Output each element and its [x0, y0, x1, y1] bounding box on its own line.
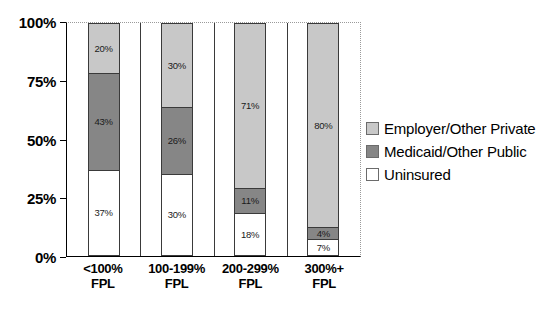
stacked-bar[interactable]: 71%11%18% [234, 23, 266, 256]
x-category-label: <100%FPL [66, 261, 140, 307]
bar-segment[interactable]: 7% [308, 239, 338, 255]
stacked-bar[interactable]: 30%26%30% [161, 23, 193, 256]
bar-segment[interactable]: 18% [235, 213, 265, 255]
bar-segment-label: 43% [94, 117, 112, 127]
bar-group-3: 71%11%18% [214, 23, 287, 256]
y-tick-label: 25% [27, 191, 56, 206]
x-axis-labels: <100%FPL100-199%FPL200-299%FPL300%+FPL [66, 261, 361, 307]
x-category-label-line: FPL [214, 276, 288, 291]
legend-item[interactable]: Medicaid/Other Public [366, 141, 551, 162]
y-tick-mark [60, 22, 66, 23]
x-category-label: 300%+FPL [287, 261, 361, 307]
legend-swatch-icon [366, 122, 379, 135]
x-category-label-line: <100% [66, 261, 140, 276]
chart-legend: Employer/Other PrivateMedicaid/Other Pub… [366, 118, 551, 187]
x-category-label: 100-199%FPL [140, 261, 214, 307]
bar-segment-label: 7% [317, 243, 330, 253]
plot-area: 20%43%37%30%26%30%71%11%18%80%4%7% [66, 22, 361, 257]
category-divider [214, 23, 215, 256]
y-tick-label: 75% [27, 73, 56, 88]
bar-segment[interactable]: 11% [235, 188, 265, 213]
bar-segment-label: 30% [168, 61, 186, 71]
y-tick-mark [60, 198, 66, 199]
category-divider [140, 23, 141, 256]
bar-segment-label: 30% [168, 210, 186, 220]
bar-segment[interactable]: 43% [89, 73, 119, 170]
stacked-bar-chart: 0%25%50%75%100% 20%43%37%30%26%30%71%11%… [0, 0, 553, 314]
legend-item[interactable]: Employer/Other Private [366, 118, 551, 139]
x-category-label-line: FPL [287, 276, 361, 291]
x-category-label-line: FPL [140, 276, 214, 291]
bars-row: 20%43%37%30%26%30%71%11%18%80%4%7% [67, 23, 360, 256]
bar-segment-label: 71% [241, 101, 259, 111]
y-tick-label: 0% [35, 250, 56, 265]
bar-segment-label: 4% [317, 229, 330, 239]
y-tick-mark [60, 140, 66, 141]
legend-item[interactable]: Uninsured [366, 164, 551, 185]
bar-segment[interactable]: 4% [308, 227, 338, 239]
bar-segment[interactable]: 30% [162, 174, 192, 255]
stacked-bar[interactable]: 80%4%7% [307, 23, 339, 256]
bar-segment-label: 37% [94, 208, 112, 218]
bar-segment[interactable]: 80% [308, 24, 338, 227]
bar-group-2: 30%26%30% [140, 23, 213, 256]
x-category-label-line: 100-199% [140, 261, 214, 276]
legend-swatch-icon [366, 145, 379, 158]
category-divider [287, 23, 288, 256]
x-category-label-line: 300%+ [287, 261, 361, 276]
legend-label: Medicaid/Other Public [384, 143, 527, 160]
legend-swatch-icon [366, 168, 379, 181]
y-tick-label: 100% [19, 15, 56, 30]
legend-label: Employer/Other Private [384, 120, 536, 137]
bar-segment-label: 18% [241, 230, 259, 240]
bar-segment-label: 80% [314, 121, 332, 131]
y-axis: 0%25%50%75%100% [0, 0, 62, 314]
x-category-label-line: 200-299% [214, 261, 288, 276]
legend-label: Uninsured [384, 166, 451, 183]
bar-group-4: 80%4%7% [287, 23, 360, 256]
bar-segment[interactable]: 26% [162, 107, 192, 174]
bar-segment-label: 26% [168, 136, 186, 146]
bar-segment[interactable]: 71% [235, 24, 265, 188]
y-tick-mark [60, 81, 66, 82]
x-category-label-line: FPL [66, 276, 140, 291]
bar-segment[interactable]: 37% [89, 170, 119, 255]
bar-segment-label: 11% [241, 196, 259, 206]
bar-segment[interactable]: 20% [89, 24, 119, 73]
bar-segment[interactable]: 30% [162, 24, 192, 107]
y-tick-label: 50% [27, 132, 56, 147]
bar-segment-label: 20% [94, 44, 112, 54]
y-tick-mark [60, 257, 66, 258]
x-category-label: 200-299%FPL [214, 261, 288, 307]
bar-group-1: 20%43%37% [67, 23, 140, 256]
stacked-bar[interactable]: 20%43%37% [88, 23, 120, 256]
